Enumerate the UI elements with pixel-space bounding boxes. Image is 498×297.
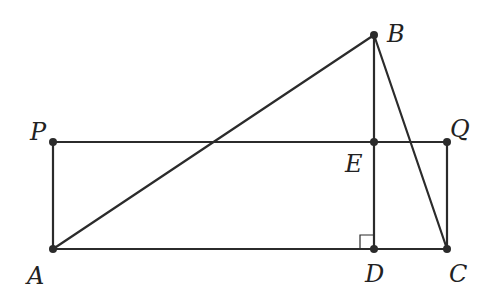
point-e [370,138,378,146]
label-q: Q [450,115,470,143]
point-d [370,245,378,253]
point-p [49,138,57,146]
point-a [49,245,57,253]
label-d: D [364,260,384,288]
label-e: E [344,150,363,178]
label-b: B [386,20,405,48]
point-c [443,245,451,253]
label-c: C [449,260,467,288]
point-b [370,31,378,39]
label-p: P [29,118,47,146]
label-a: A [25,262,44,290]
geometry-diagram: APBEQDC [0,0,498,297]
